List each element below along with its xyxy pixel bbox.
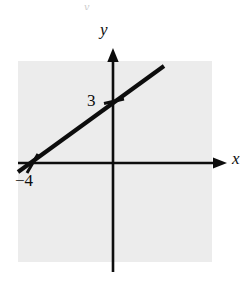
y-intercept-label: 3 <box>87 92 96 109</box>
plot-area-background <box>18 61 212 262</box>
y-axis-label: y <box>100 21 108 38</box>
x-axis-label: x <box>232 150 240 167</box>
x-axis-arrow-icon <box>213 157 227 168</box>
scan-artifact: y <box>84 1 106 10</box>
graph-figure <box>0 0 247 292</box>
y-axis-arrow-icon <box>107 48 118 62</box>
x-intercept-label: −4 <box>15 172 33 189</box>
